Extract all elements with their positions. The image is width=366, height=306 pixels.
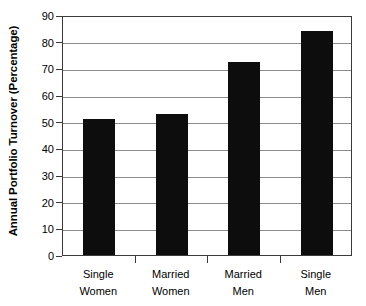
y-axis-tick-label: 10: [32, 224, 54, 235]
x-axis-category-label-line1: Married: [225, 268, 262, 280]
bar-chart: Annual Portfolio Turnover (Percentage) 0…: [0, 0, 366, 306]
y-axis-tick-mark: [56, 16, 62, 17]
y-axis-tick-label: 20: [32, 197, 54, 208]
y-axis-title: Annual Portfolio Turnover (Percentage): [0, 0, 26, 262]
y-axis-tick-label: 60: [32, 91, 54, 102]
x-axis-category-label-line1: Married: [152, 268, 189, 280]
bar: [156, 114, 188, 255]
y-axis-tick-mark: [56, 96, 62, 97]
x-axis-tick-mark: [207, 256, 208, 263]
bar: [83, 119, 115, 255]
x-axis-category-label-line2: Men: [280, 283, 353, 300]
y-axis-tick-mark: [56, 229, 62, 230]
y-axis-tick-mark: [56, 256, 62, 257]
y-axis-tick-mark: [56, 149, 62, 150]
y-axis-tick-mark: [56, 202, 62, 203]
bar: [228, 62, 260, 255]
x-axis-category-label: SingleWomen: [62, 266, 135, 300]
x-axis-category-label: MarriedMen: [207, 266, 280, 300]
x-axis-category-label: SingleMen: [280, 266, 353, 300]
x-axis-category-label: MarriedWomen: [135, 266, 208, 300]
x-axis-tick-mark: [280, 256, 281, 263]
y-axis-tick-label: 50: [32, 117, 54, 128]
x-axis-tick-mark: [135, 256, 136, 263]
y-axis-tick-label: 70: [32, 64, 54, 75]
plot-area: [62, 16, 352, 256]
x-axis-category-label-line1: Single: [83, 268, 114, 280]
y-axis-tick-mark: [56, 42, 62, 43]
y-axis-tick-label: 90: [32, 11, 54, 22]
x-axis-category-label-line2: Women: [135, 283, 208, 300]
x-axis-category-label-line2: Women: [62, 283, 135, 300]
y-axis-tick-mark: [56, 122, 62, 123]
x-axis-category-label-line2: Men: [207, 283, 280, 300]
y-axis-tick-mark: [56, 69, 62, 70]
y-axis-tick-label: 80: [32, 37, 54, 48]
y-axis-tick-labels: 0102030405060708090: [28, 16, 54, 256]
y-axis-tick-label: 30: [32, 171, 54, 182]
x-axis-category-label-line1: Single: [300, 268, 331, 280]
y-axis-tick-label: 40: [32, 144, 54, 155]
y-axis-tick-label: 0: [32, 251, 54, 262]
y-axis-tick-mark: [56, 176, 62, 177]
bar: [301, 31, 333, 255]
y-axis-title-text: Annual Portfolio Turnover (Percentage): [7, 26, 19, 237]
